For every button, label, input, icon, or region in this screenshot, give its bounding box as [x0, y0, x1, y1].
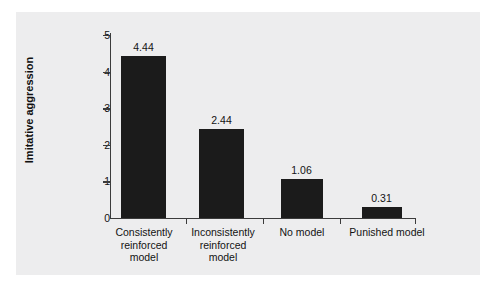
figure: Imitative aggression 5 4 3 2 1 0 — [0, 0, 499, 292]
x-label-no-model: No model — [264, 226, 340, 239]
bar-consistently-reinforced-model[interactable] — [121, 56, 166, 219]
y-axis-title: Imitative aggression — [23, 35, 35, 185]
y-tick-mark-3 — [103, 108, 110, 109]
y-tick-mark-5 — [103, 35, 110, 36]
x-label-consistently-reinforced-model: Consistently reinforced model — [106, 226, 182, 264]
y-axis-line — [110, 33, 111, 219]
bar-value-no-model: 1.06 — [271, 165, 332, 176]
y-tick-mark-4 — [103, 72, 110, 73]
y-tick-mark-1 — [103, 181, 110, 182]
bar-no-model[interactable] — [281, 179, 323, 218]
bar-value-punished-model: 0.31 — [351, 193, 412, 204]
x-label-punished-model: Punished model — [341, 226, 433, 239]
y-tick-mark-2 — [103, 145, 110, 146]
x-tick-mark-1 — [186, 219, 187, 224]
x-label-inconsistently-reinforced-model: Inconsistently reinforced model — [182, 226, 264, 264]
x-tick-mark-4 — [415, 219, 416, 224]
bar-inconsistently-reinforced-model[interactable] — [199, 129, 244, 218]
bar-value-inconsistently-reinforced-model: 2.44 — [191, 115, 252, 126]
y-tick-0: 0 — [80, 218, 110, 219]
bar-value-consistently-reinforced-model: 4.44 — [113, 42, 174, 53]
x-tick-mark-3 — [340, 219, 341, 224]
x-tick-mark-2 — [263, 219, 264, 224]
bar-punished-model[interactable] — [362, 207, 402, 218]
